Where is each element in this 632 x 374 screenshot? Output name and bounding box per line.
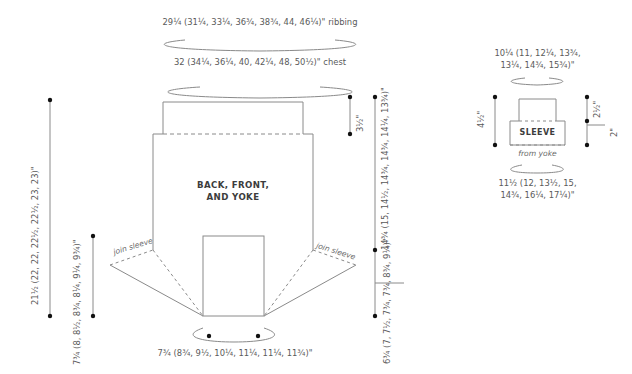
right-yoke-line [264,265,356,316]
sleeve-upper-ellipse [511,165,564,173]
chest-measure: 32 (34¼, 36¼, 40, 42¼, 48, 50½)" chest [130,57,390,68]
left-raglan-dash [153,250,203,316]
sleeve-upper-arm-line1: 11½ (12, 13½, 15, [480,178,595,189]
rib-box [163,102,303,134]
sleeve-top-box [519,99,556,121]
body-label-line1: BACK, FRONT, [153,180,313,191]
neck-ellipse [193,328,274,342]
sleeve-label: SLEEVE [510,127,565,138]
yoke-top-depth: 3½" [355,115,366,132]
sleeve-cuff-line2: 13¼, 14¾, 15¾)" [480,60,595,71]
neck-measure: 7¾ (8¾, 9½, 10¼, 11¼, 11¼, 11¾)" [110,348,360,359]
neck-box [203,236,264,316]
ribbing-ellipse [164,40,355,51]
sleeve-from-yoke: from yoke [505,148,570,159]
measure-dots [48,95,589,338]
ribbing-measure: 29¼ (31¼, 33¼, 36¾, 38¾, 44, 46¼)" ribbi… [130,17,390,28]
sleeve-upper-measure: 2" [609,128,620,137]
left-yoke-line [110,265,203,316]
body-length-measure: 14¾ (15, 14½, 14¾, 14¾, 14¼, 13¾)" [380,87,391,250]
sleeve-length-measure: 4½" [476,111,487,128]
chest-ellipse [168,87,352,98]
armhole-measure: 7¾ (8, 8½, 8¾, 8¼, 9¼, 9¾)" [72,239,83,365]
sleeve-upper-arm-line2: 14¾, 16¼, 17¼)" [480,190,595,201]
sleeve-cuff-line1: 10¼ (11, 12¼, 13¾, [480,48,595,59]
sleeve-cuff-ellipse [511,78,563,85]
sleeve-cuff-depth: 2½" [592,101,603,118]
yoke-depth-measure: 6¾ (7, 7½, 7¾, 7¾, 8¾, 9¼)" [382,238,393,364]
total-length-measure: 21½ (22, 22, 22½, 22½, 23, 23)" [30,166,41,305]
body-label-line2: AND YOKE [153,192,313,203]
right-raglan-dash [264,250,313,316]
